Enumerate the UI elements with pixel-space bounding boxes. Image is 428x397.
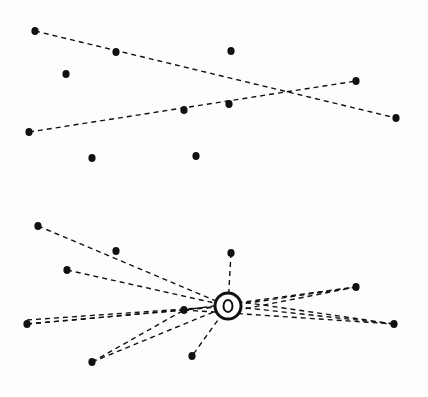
dashed-connector-line [38,226,228,306]
point-dot [180,306,187,314]
point-dot [112,48,119,56]
dashed-connector-line [228,306,394,324]
point-dot [352,77,359,85]
dashed-connector-line [228,300,394,324]
point-dot [392,114,399,122]
point-dot [112,247,119,255]
point-dot [192,152,199,160]
point-dot [188,352,195,360]
point-dot [227,47,234,55]
dashed-connector-line [228,287,356,312]
point-dot [227,249,234,257]
dot-line-diagram [0,0,428,397]
dashed-connector-line [35,31,396,118]
point-dot [225,100,232,108]
point-dot [25,128,32,136]
diagram-canvas [0,0,428,397]
dashed-connector-line [184,287,356,310]
point-dot [88,154,95,162]
point-dot [180,106,187,114]
top-panel [25,27,399,162]
point-dot [34,222,41,230]
dashed-connector-line [67,270,228,306]
point-dot [62,70,69,78]
bottom-panel [23,222,397,366]
dashed-connector-line [92,310,184,362]
point-dot [390,320,397,328]
point-dot [23,320,30,328]
dashed-connector-line [29,81,356,132]
point-dot [352,283,359,291]
hub-ring [215,293,241,319]
point-dot [31,27,38,35]
point-dot [88,358,95,366]
dashed-connector-line [27,310,184,324]
point-dot [63,266,70,274]
